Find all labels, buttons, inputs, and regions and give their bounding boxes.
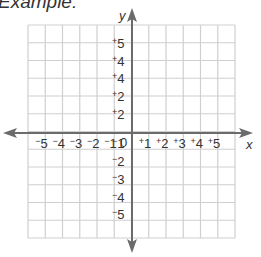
x-axis-label: x: [245, 137, 253, 152]
coordinate-plane: x y 0 −5−4−3−2−1+1+2+3+4+5 +5+4+4+2+2−1−…: [0, 0, 261, 257]
y-axis-label: y: [118, 8, 127, 23]
axes: [3, 8, 253, 253]
